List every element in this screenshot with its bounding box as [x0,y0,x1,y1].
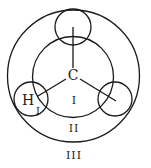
bond-left [38,79,66,96]
hydrogen-label: H [22,92,34,108]
diagram-canvas: C H I I II III [0,0,151,168]
carbon-label: C [68,67,79,83]
right-atom-circle [98,82,132,116]
region-iii-label: III [66,149,82,162]
region-i-label: I [72,94,76,107]
region-ii-label: II [69,122,80,135]
hydrogen-region-label: I [36,105,40,116]
